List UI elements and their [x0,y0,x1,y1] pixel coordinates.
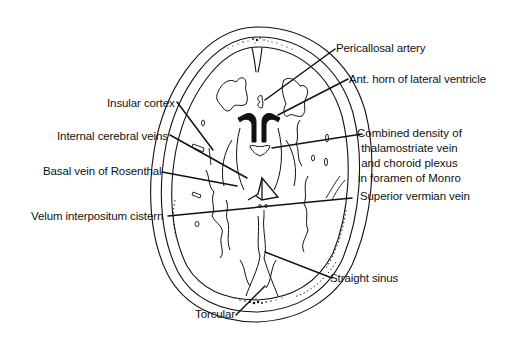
label-torcular: Torcular [195,308,235,321]
leader-combined-density [272,134,362,148]
leader-velum [168,198,352,216]
straight-sinus [246,216,278,296]
skull-inner-outline [161,37,359,312]
leader-internal-cerebral [170,135,247,178]
diploe-speckles-occipital [234,297,282,304]
label-basal-vein-rosenthal: Basal vein of Rosenthal [43,165,162,178]
label-combined-density-line4: in foramen of Monro [357,171,462,186]
label-combined-density-line3: and choroid plexus [357,156,462,171]
brain-surface-outline [172,47,348,300]
anterior-horns-lateral-ventricles [238,113,280,142]
label-insular-cortex: Insular cortex [107,97,175,110]
leader-ant-horn [278,79,348,115]
label-superior-vermian-vein: Superior vermian vein [360,190,470,203]
leader-pericallosal [265,49,335,100]
diploe-dashes-lateral [173,200,346,297]
label-combined-density-line2: thalamostriate vein [357,141,462,156]
label-pericallosal-artery: Pericallosal artery [336,42,426,55]
leader-straight-sinus [265,252,332,278]
velum-interpositum-triangle [248,178,278,200]
foramen-monro-density [250,145,270,156]
falx-anterior [252,48,262,72]
label-straight-sinus: Straight sinus [330,272,398,285]
diploe-speckles-frontal [227,37,292,49]
leader-basal-vein [162,172,237,186]
label-combined-density-line1: Combined density of [357,126,462,141]
vessel-ovals [192,120,345,227]
label-internal-cerebral-veins: Internal cerebral veins [57,130,168,143]
label-combined-density: Combined density of thalamostriate vein … [357,126,462,186]
label-velum-interpositum-cistern: Velum interpositum cistern [31,210,163,223]
label-ant-horn-lateral-ventricle: Ant. horn of lateral ventricle [349,73,486,86]
pericallosal-artery-loop [258,96,263,108]
